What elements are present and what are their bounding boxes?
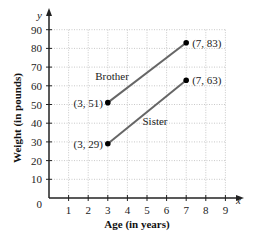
x-axis-label: Age (in years) — [104, 218, 170, 231]
line-chart: 123456789102030405060708090 (3, 51)(7, 8… — [0, 0, 254, 240]
point-label: (7, 83) — [192, 37, 222, 50]
x-axis-var: x — [235, 194, 241, 206]
data-point — [105, 100, 111, 106]
grid — [49, 30, 225, 198]
y-tick-label: 30 — [31, 136, 43, 148]
x-tick-label: 9 — [223, 204, 229, 216]
y-tick-label: 20 — [31, 155, 43, 167]
data-point — [105, 141, 111, 147]
y-tick-label: 80 — [31, 42, 43, 54]
origin-label: 0 — [37, 198, 43, 210]
x-tick-label: 1 — [66, 204, 72, 216]
x-tick-label: 4 — [125, 204, 131, 216]
y-tick-label: 10 — [31, 173, 43, 185]
x-tick-label: 5 — [144, 204, 150, 216]
y-axis-label: Weight (in pounds) — [11, 73, 24, 163]
x-tick-label: 7 — [183, 204, 189, 216]
point-label: (7, 63) — [192, 74, 222, 87]
point-label: (3, 29) — [73, 138, 103, 151]
series-sister: (3, 29)(7, 63)Sister — [73, 74, 221, 151]
y-tick-label: 60 — [31, 80, 43, 92]
y-tick-label: 90 — [31, 24, 43, 36]
x-tick-label: 2 — [85, 204, 91, 216]
tick-labels: 123456789102030405060708090 — [31, 24, 229, 216]
x-tick-label: 8 — [203, 204, 209, 216]
y-axis-var: y — [36, 9, 42, 21]
x-tick-label: 3 — [105, 204, 111, 216]
series: (3, 51)(7, 83)Brother(3, 29)(7, 63)Siste… — [73, 37, 221, 151]
x-tick-label: 6 — [164, 204, 170, 216]
y-tick-label: 50 — [31, 99, 43, 111]
series-label: Brother — [95, 70, 129, 82]
data-point — [183, 40, 189, 46]
y-tick-label: 40 — [31, 117, 43, 129]
series-label: Sister — [142, 115, 167, 127]
y-tick-label: 70 — [31, 61, 43, 73]
data-point — [183, 77, 189, 83]
point-label: (3, 51) — [73, 97, 103, 110]
